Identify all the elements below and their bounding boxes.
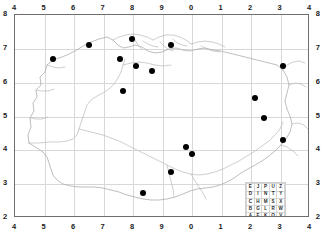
letter-square-cell: G xyxy=(254,205,262,212)
letter-square-row: DINTY xyxy=(247,191,285,198)
data-point xyxy=(140,190,146,196)
letter-square-cell: H xyxy=(254,198,262,205)
letter-square-cell: C xyxy=(247,198,255,205)
x-tick-label-bottom: 6 xyxy=(71,223,75,231)
letter-square-table: EJPUZDINTYCHMSXBGLRWAFKQV xyxy=(246,183,285,217)
x-tick-label-bottom: 4 xyxy=(12,223,16,231)
letter-square-cell: P xyxy=(262,184,270,191)
y-tick-label-left: 8 xyxy=(3,10,7,18)
data-point xyxy=(149,68,155,74)
x-tick-label-bottom: 8 xyxy=(130,223,134,231)
x-tick-label-top: 1 xyxy=(218,4,222,12)
y-tick-label-left: 7 xyxy=(3,44,7,52)
letter-square-cell: A xyxy=(247,213,255,217)
x-tick-label-top: 9 xyxy=(159,4,163,12)
letter-square-cell: S xyxy=(269,198,277,205)
data-point xyxy=(120,88,126,94)
y-tick-label-right: 8 xyxy=(316,10,320,18)
letter-square-cell: Y xyxy=(277,191,285,198)
letter-square-cell: T xyxy=(269,191,277,198)
x-tick-label-top: 4 xyxy=(307,4,311,12)
legend-letter-square: EJPUZDINTYCHMSXBGLRWAFKQV xyxy=(245,182,286,217)
letter-square-cell: F xyxy=(254,213,262,217)
data-point xyxy=(189,151,195,157)
letter-square-cell: E xyxy=(247,184,255,191)
y-tick-label-left: 6 xyxy=(3,78,7,86)
y-tick-label-right: 2 xyxy=(316,213,320,221)
letter-square-cell: V xyxy=(277,213,285,217)
y-tick-label-left: 2 xyxy=(3,213,7,221)
x-tick-label-bottom: 5 xyxy=(41,223,45,231)
y-tick-label-right: 4 xyxy=(316,146,320,154)
y-tick-label-right: 3 xyxy=(316,179,320,187)
x-tick-label-bottom: 3 xyxy=(277,223,281,231)
letter-square-cell: R xyxy=(269,205,277,212)
map-scatter-figure: EJPUZDINTYCHMSXBGLRWAFKQV 44556677889900… xyxy=(0,0,323,233)
x-tick-label-bottom: 1 xyxy=(218,223,222,231)
x-tick-label-top: 5 xyxy=(41,4,45,12)
y-tick-label-right: 5 xyxy=(316,112,320,120)
letter-square-cell: N xyxy=(262,191,270,198)
data-point xyxy=(183,144,189,150)
letter-square-cell: D xyxy=(247,191,255,198)
y-tick-label-right: 6 xyxy=(316,78,320,86)
x-tick-label-top: 8 xyxy=(130,4,134,12)
letter-square-cell: X xyxy=(277,198,285,205)
y-tick-label-left: 4 xyxy=(3,146,7,154)
x-tick-label-top: 2 xyxy=(248,4,252,12)
plot-area: EJPUZDINTYCHMSXBGLRWAFKQV xyxy=(14,14,309,217)
letter-square-row: BGLRW xyxy=(247,205,285,212)
letter-square-cell: W xyxy=(277,205,285,212)
x-tick-label-top: 3 xyxy=(277,4,281,12)
letter-square-cell: Q xyxy=(269,213,277,217)
y-tick-label-right: 7 xyxy=(316,44,320,52)
letter-square-cell: I xyxy=(254,191,262,198)
x-tick-label-top: 4 xyxy=(12,4,16,12)
x-tick-label-bottom: 9 xyxy=(159,223,163,231)
x-tick-label-bottom: 2 xyxy=(248,223,252,231)
y-tick-label-left: 5 xyxy=(3,112,7,120)
letter-square-cell: U xyxy=(269,184,277,191)
data-point xyxy=(133,63,139,69)
letter-square-row: CHMSX xyxy=(247,198,285,205)
letter-square-cell: L xyxy=(262,205,270,212)
x-tick-label-bottom: 4 xyxy=(307,223,311,231)
x-tick-label-bottom: 0 xyxy=(189,223,193,231)
letter-square-cell: Z xyxy=(277,184,285,191)
letter-square-row: EJPUZ xyxy=(247,184,285,191)
x-tick-label-top: 0 xyxy=(189,4,193,12)
x-tick-label-top: 7 xyxy=(100,4,104,12)
letter-square-cell: K xyxy=(262,213,270,217)
letter-square-cell: J xyxy=(254,184,262,191)
x-tick-label-bottom: 7 xyxy=(100,223,104,231)
letter-square-cell: B xyxy=(247,205,255,212)
letter-square-cell: M xyxy=(262,198,270,205)
x-tick-label-top: 6 xyxy=(71,4,75,12)
data-point xyxy=(117,56,123,62)
letter-square-row: AFKQV xyxy=(247,213,285,217)
y-tick-label-left: 3 xyxy=(3,179,7,187)
data-point xyxy=(129,36,135,42)
